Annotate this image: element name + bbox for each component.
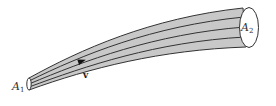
flow-tube-figure: A1 A2 v	[0, 0, 276, 106]
inlet-cross-section	[27, 78, 31, 90]
flow-tube-body	[29, 8, 246, 90]
velocity-label: v	[82, 70, 89, 80]
inlet-area-label: A1	[11, 80, 24, 94]
